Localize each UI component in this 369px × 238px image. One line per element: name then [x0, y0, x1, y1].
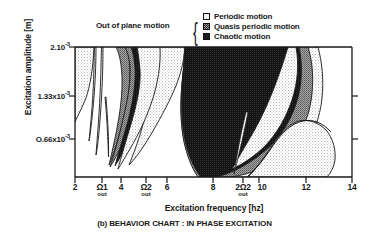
figure-caption: (b) BEHAVIOR CHART : IN PHASE EXCITATION	[0, 219, 369, 228]
x-tick-label-6: 6	[165, 182, 170, 192]
y-tick-label-2e-3: 2.10-3	[50, 41, 70, 52]
y-tick-label-0_66e-3: O.66x10-3	[36, 133, 70, 144]
x-tick-label-12: 12	[301, 182, 310, 192]
x-tick-sub-omega2out: out	[141, 191, 150, 197]
y-axis-title: Excitation amplitude [m]	[23, 0, 33, 137]
y-tick-label-1_33e-3: 1.33x10-3	[38, 90, 70, 101]
x-tick-label-14: 14	[347, 182, 356, 192]
x-tick-label-8: 8	[211, 182, 216, 192]
behavior-chart-figure: Out of plane motion { Periodic motion Qu…	[0, 0, 369, 238]
y-axis-ticks-right	[352, 96, 358, 139]
x-tick-sub-2omega2out: out	[238, 191, 247, 197]
x-tick-sub-omega1out: out	[97, 191, 106, 197]
x-tick-label-4: 4	[119, 182, 124, 192]
x-tick-label-2: 2	[73, 182, 78, 192]
x-tick-label-10: 10	[257, 182, 266, 192]
x-axis-title: Excitation frequency [hz]	[75, 203, 353, 213]
